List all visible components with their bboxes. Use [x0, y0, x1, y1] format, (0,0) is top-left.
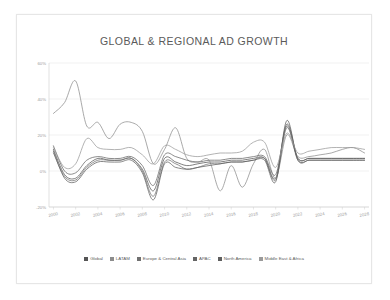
- y-axis-tick-label: 40%: [37, 97, 46, 102]
- legend-item[interactable]: Europe & Central Asia: [137, 257, 186, 261]
- y-axis-tick-label: 20%: [37, 133, 46, 138]
- series-line-global: [53, 124, 364, 191]
- legend-label: APAC: [199, 257, 211, 261]
- legend-swatch-icon: [193, 257, 197, 261]
- x-axis-tick-label: 2002: [70, 211, 81, 218]
- legend-label: Europe & Central Asia: [143, 257, 186, 261]
- legend-swatch-icon: [137, 257, 141, 261]
- gridlines: [49, 63, 369, 207]
- series-line-latam: [53, 81, 364, 191]
- legend-swatch-icon: [259, 257, 263, 261]
- line-chart: -20%0%20%40%60% 200020022004200620082010…: [17, 55, 373, 245]
- page-title: GLOBAL & REGIONAL AD GROWTH: [17, 35, 371, 47]
- x-axis-tick-label: 2012: [181, 211, 192, 218]
- x-axis-labels: 2000200220042006200820102012201420162018…: [48, 211, 370, 218]
- x-axis-tick-label: 2024: [315, 211, 326, 218]
- x-axis-tick-label: 2004: [92, 211, 103, 218]
- x-axis-tick-label: 2006: [115, 211, 126, 218]
- x-axis-tick-label: 2008: [137, 211, 148, 218]
- x-axis-tick-label: 2010: [159, 211, 170, 218]
- data-series-group: [53, 81, 364, 200]
- legend-label: North America: [224, 257, 252, 261]
- legend-item[interactable]: APAC: [193, 257, 211, 261]
- x-axis-tick-label: 2018: [248, 211, 259, 218]
- x-axis-tick-label: 2020: [270, 211, 281, 218]
- x-axis-tick-label: 2014: [203, 211, 214, 218]
- legend-label: Global: [90, 257, 103, 261]
- legend-item[interactable]: Global: [84, 257, 103, 261]
- legend-item[interactable]: North America: [218, 257, 252, 261]
- x-axis-tick-label: 2022: [292, 211, 303, 218]
- y-axis-tick-label: 0%: [40, 169, 46, 174]
- legend-label: LATAM: [116, 257, 130, 261]
- series-line-middle-east-africa: [53, 133, 364, 169]
- legend-label: Middle East & Africa: [265, 257, 304, 261]
- x-tick-marks: [53, 207, 364, 210]
- y-axis-tick-label: 60%: [37, 61, 46, 66]
- x-axis-tick-label: 2028: [359, 211, 370, 218]
- x-axis-tick-label: 2026: [337, 211, 348, 218]
- x-axis-tick-label: 2000: [48, 211, 59, 218]
- legend-swatch-icon: [110, 257, 114, 261]
- y-axis-tick-label: -20%: [36, 205, 46, 210]
- chart-legend: GlobalLATAMEurope & Central AsiaAPACNort…: [17, 257, 371, 261]
- x-axis-tick-label: 2016: [226, 211, 237, 218]
- legend-item[interactable]: Middle East & Africa: [259, 257, 304, 261]
- legend-item[interactable]: LATAM: [110, 257, 130, 261]
- legend-swatch-icon: [84, 257, 88, 261]
- y-axis-labels: -20%0%20%40%60%: [36, 61, 46, 210]
- legend-swatch-icon: [218, 257, 222, 261]
- plot-area: -20%0%20%40%60% 200020022004200620082010…: [17, 55, 373, 245]
- chart-card: GLOBAL & REGIONAL AD GROWTH -20%0%20%40%…: [16, 14, 372, 284]
